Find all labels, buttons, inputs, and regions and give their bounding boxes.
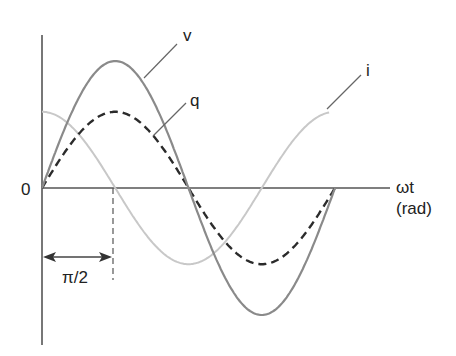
capacitor-waveform-diagram: v q i 0 ωt (rad) π/2 [0,0,456,356]
diagram-canvas: v q i 0 ωt (rad) π/2 [0,0,456,356]
v-label: v [183,26,192,45]
phase-shift-label: π/2 [62,268,88,287]
i-leader-line [327,75,361,109]
v-leader-line [144,44,177,78]
x-axis-label-omega-t: ωt [396,178,414,197]
q-label: q [190,91,199,110]
x-axis-label-unit: (rad) [396,199,432,218]
origin-label: 0 [21,180,30,199]
i-label: i [366,61,370,80]
q-leader-line [153,103,186,136]
